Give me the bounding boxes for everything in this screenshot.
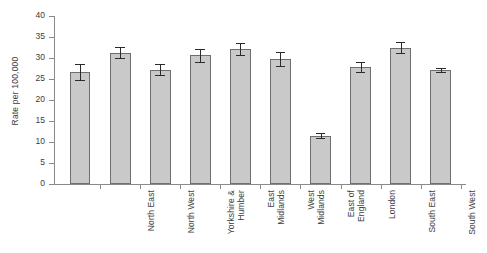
x-axis-category-label: North West [187, 190, 197, 252]
bar-chart: Rate per 100,000 0510152025303540 North … [0, 0, 487, 253]
bar [150, 70, 171, 184]
bar [270, 59, 291, 184]
error-bar-cap-lower [115, 58, 125, 59]
y-tick-label: 30 [36, 52, 45, 62]
x-axis-category-label: East of England [347, 190, 366, 252]
bar [190, 55, 211, 184]
error-bar-cap-lower [276, 66, 286, 67]
y-tick-label: 10 [36, 136, 45, 146]
error-bar-cap-lower [236, 55, 246, 56]
x-tick [381, 185, 382, 189]
y-tick: 25 [49, 79, 54, 80]
error-bar-cap-upper [316, 133, 326, 134]
error-bar-cap-upper [276, 52, 286, 53]
error-bar-line [120, 47, 121, 59]
bar [110, 53, 131, 184]
y-tick: 40 [49, 16, 54, 17]
error-bar-cap-upper [195, 49, 205, 50]
y-tick: 5 [49, 163, 54, 164]
error-bar-cap-lower [195, 62, 205, 63]
y-tick-label: 5 [40, 157, 45, 167]
y-tick: 35 [49, 37, 54, 38]
y-tick-label: 20 [36, 94, 45, 104]
x-axis-category-label: North East [147, 190, 157, 252]
error-bar-cap-upper [356, 62, 366, 63]
bar [230, 49, 251, 184]
error-bar-line [401, 42, 402, 54]
y-tick: 15 [49, 121, 54, 122]
y-tick: 10 [49, 142, 54, 143]
x-axis-category-label: West Midlands [307, 190, 326, 252]
error-bar-line [280, 52, 281, 66]
x-tick [421, 185, 422, 189]
bar [70, 72, 91, 184]
y-tick-label: 25 [36, 73, 45, 83]
bar [390, 48, 411, 185]
x-axis-category-label: South West [468, 190, 478, 252]
error-bar-cap-upper [436, 68, 446, 69]
error-bar-line [80, 64, 81, 80]
x-tick [341, 185, 342, 189]
y-tick-label: 40 [36, 10, 45, 20]
x-tick [300, 185, 301, 189]
error-bar-cap-lower [75, 80, 85, 81]
error-bar-cap-lower [316, 138, 326, 139]
error-bar-cap-upper [115, 47, 125, 48]
y-axis-line [54, 16, 55, 184]
error-bar-cap-upper [155, 64, 165, 65]
bar [310, 136, 331, 184]
x-axis-category-label: London [388, 190, 398, 252]
error-bar-line [361, 62, 362, 72]
bar [430, 70, 451, 184]
x-tick [140, 185, 141, 189]
x-tick [220, 185, 221, 189]
y-axis-title: Rate per 100,000 [8, 0, 22, 182]
x-tick [180, 185, 181, 189]
y-tick-label: 0 [40, 178, 45, 188]
error-bar-cap-lower [356, 72, 366, 73]
y-tick-label: 35 [36, 31, 45, 41]
x-axis-category-label: East Midlands [267, 190, 286, 252]
error-bar-cap-upper [396, 42, 406, 43]
y-tick-label: 15 [36, 115, 45, 125]
y-tick: 0 [49, 184, 54, 185]
x-axis-category-label: Yorkshire & Humber [227, 190, 246, 252]
error-bar-line [160, 64, 161, 75]
error-bar-line [240, 43, 241, 56]
error-bar-cap-lower [396, 53, 406, 54]
error-bar-line [200, 49, 201, 62]
error-bar-cap-upper [236, 43, 246, 44]
y-tick: 30 [49, 58, 54, 59]
error-bar-cap-upper [75, 64, 85, 65]
error-bar-cap-lower [155, 75, 165, 76]
x-axis-category-label: South East [428, 190, 438, 252]
plot-area: 0510152025303540 [54, 16, 466, 184]
x-tick [461, 185, 462, 189]
error-bar-cap-lower [436, 72, 446, 73]
x-tick [260, 185, 261, 189]
x-tick [100, 185, 101, 189]
bar [350, 67, 371, 184]
y-tick: 20 [49, 100, 54, 101]
